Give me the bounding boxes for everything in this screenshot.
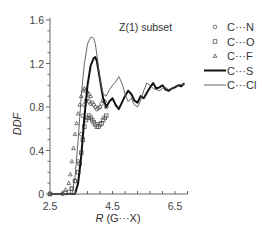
legend-item: C···O — [213, 36, 255, 48]
x-axis-title-symbol: R — [95, 212, 103, 224]
legend-item: C···S — [204, 65, 253, 77]
chart-title: Z(1) subset — [119, 21, 172, 33]
triangle-marker — [70, 159, 74, 162]
legend-item: C···F — [213, 50, 253, 62]
legend-label: C···N — [227, 21, 254, 33]
x-tick-label: 4.5 — [105, 200, 120, 212]
axes: 00.40.81.21.6 2.54.56.5 — [29, 14, 188, 212]
legend-label: C···Cl — [227, 79, 256, 91]
legend-circle-icon — [213, 25, 217, 29]
triangle-marker — [72, 146, 76, 149]
series-line — [50, 37, 184, 194]
y-axis-title: DDF — [11, 111, 23, 135]
x-tick-label: 6.5 — [168, 200, 183, 212]
x-axis-title-rest: (G···X) — [103, 212, 140, 224]
triangle-marker — [89, 94, 93, 97]
plot-area — [48, 37, 184, 195]
triangle-marker — [64, 188, 68, 191]
triangle-marker — [75, 121, 79, 124]
x-axis-title: R (G···X) — [95, 212, 140, 224]
legend-label: C···S — [227, 65, 253, 77]
legend-item: C···N — [213, 21, 254, 33]
triangle-marker — [76, 112, 80, 115]
ddf-chart: 00.40.81.21.6 2.54.56.5 Z(1) subset DDF … — [0, 0, 262, 238]
triangle-marker — [69, 172, 73, 175]
x-tick-label: 2.5 — [43, 200, 58, 212]
legend: C···NC···OC···FC···SC···Cl — [204, 21, 256, 91]
series-ccl — [50, 37, 184, 194]
y-tick-label: 1.2 — [29, 58, 44, 70]
legend-triangle-icon — [213, 54, 217, 57]
legend-label: C···F — [227, 50, 253, 62]
y-tick-label: 0.8 — [29, 101, 44, 113]
triangle-marker — [67, 181, 71, 184]
y-tick-label: 1.6 — [29, 14, 44, 26]
y-tick-label: 0 — [38, 188, 44, 200]
legend-item: C···Cl — [204, 79, 256, 91]
triangle-marker — [73, 132, 77, 135]
y-ticks: 00.40.81.21.6 — [29, 14, 50, 200]
legend-square-icon — [213, 40, 217, 44]
legend-label: C···O — [227, 36, 255, 48]
y-tick-label: 0.4 — [29, 145, 44, 157]
